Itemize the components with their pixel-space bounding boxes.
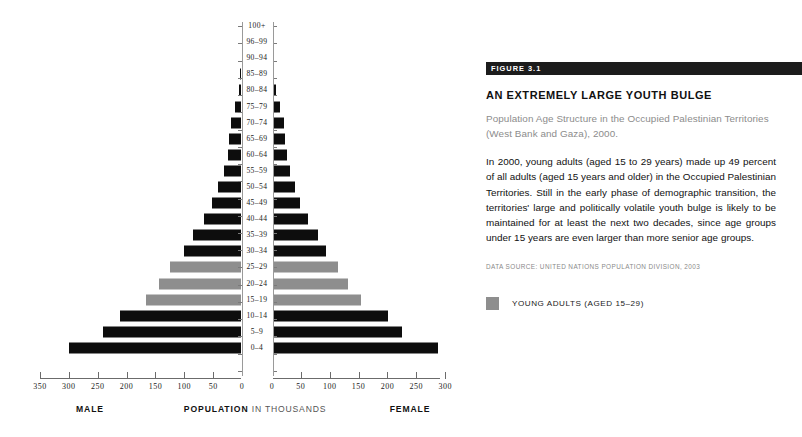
bar-female [272,181,295,192]
age-axis-tick-right [273,302,277,303]
age-axis-tick-right [273,181,277,182]
female-axis-tick [445,372,446,379]
age-group-label: 20–24 [241,279,273,289]
female-axis-tick [416,372,417,379]
age-axis-tick-right [273,319,277,320]
male-axis-tick-label: 350 [23,382,57,391]
age-group-label: 5–9 [241,327,273,337]
age-axis-spine-right [273,22,274,376]
age-group-label: 40–44 [241,214,273,224]
population-axis-title-unit: IN THOUSANDS [252,404,326,414]
male-axis-tick [40,372,41,379]
male-axis-tick [213,372,214,379]
female-axis-tick-label: 300 [428,382,462,391]
male-axis-tick [127,372,128,379]
bar-male [146,294,242,305]
pyramid-row: 80–84 [0,82,470,98]
age-axis-tick-right [273,199,277,200]
bar-female [272,133,285,144]
bar-female [272,278,348,289]
bar-male [170,262,242,273]
age-axis-tick-right [273,43,277,44]
pyramid-row: 60–64 [0,147,470,163]
age-group-label: 25–29 [241,262,273,272]
legend: YOUNG ADULTS (AGED 15–29) [486,297,802,310]
legend-label-young-adults: YOUNG ADULTS (AGED 15–29) [512,299,644,308]
bar-female [272,149,287,160]
axis-titles: MALE POPULATION IN THOUSANDS FEMALE [0,404,470,424]
bar-male [193,230,242,241]
age-axis-tick-right [273,130,277,131]
population-pyramid: 100+96–9990–9485–8980–8475–7970–7465–696… [0,18,470,378]
age-group-label: 70–74 [241,118,273,128]
age-group-label: 60–64 [241,150,273,160]
female-axis-tick [359,372,360,379]
pyramid-row: 65–69 [0,131,470,147]
bar-female [272,342,438,353]
bar-female [272,310,388,321]
figure-data-source: DATA SOURCE: UNITED NATIONS POPULATION D… [486,263,802,270]
population-axis-title-bold: POPULATION [184,404,249,414]
pyramid-row: 55–59 [0,163,470,179]
age-axis-tick-right [273,336,277,337]
legend-swatch-young-adults [486,297,499,310]
age-group-label: 100+ [241,21,273,31]
age-group-label: 15–19 [241,295,273,305]
pyramid-row: 100+ [0,18,470,34]
pyramid-row: 45–49 [0,195,470,211]
male-axis-tick [155,372,156,379]
bar-male [69,342,242,353]
female-axis-tick [330,372,331,379]
male-axis-line [40,378,242,379]
age-group-label: 65–69 [241,134,273,144]
chart-panel: 100+96–9990–9485–8980–8475–7970–7465–696… [0,0,470,437]
pyramid-row: 15–19 [0,292,470,308]
bar-male [204,214,242,225]
age-axis-tick-right [273,250,277,251]
age-group-label: 55–59 [241,166,273,176]
age-axis-tick-right [273,216,277,217]
figure-title: AN EXTREMELY LARGE YOUTH BULGE [486,88,802,102]
bar-male [229,133,242,144]
age-group-label: 96–99 [241,37,273,47]
age-axis-tick-right [273,233,277,234]
age-group-label: 50–54 [241,182,273,192]
age-group-label: 35–39 [241,230,273,240]
bar-female [272,214,308,225]
bar-male [218,181,242,192]
pyramid-row: 20–24 [0,276,470,292]
pyramid-row: 75–79 [0,98,470,114]
age-group-label: 80–84 [241,85,273,95]
age-group-label: 75–79 [241,102,273,112]
bar-female [272,230,318,241]
bar-male [228,149,242,160]
male-axis-title: MALE [40,404,140,414]
bar-male [159,278,242,289]
age-group-label: 85–89 [241,69,273,79]
pyramid-row: 5–9 [0,324,470,340]
bar-female [272,165,290,176]
pyramid-row: 70–74 [0,115,470,131]
age-axis-tick-right [273,285,277,286]
figure-number-label: FIGURE 3.1 [486,64,541,73]
age-axis-tick-right [273,354,277,355]
bar-female [272,326,402,337]
age-group-label: 10–14 [241,311,273,321]
bar-male [224,165,242,176]
age-axis-tick-right [273,95,277,96]
pyramid-row: 40–44 [0,211,470,227]
age-axis-tick-right [273,78,277,79]
pyramid-row: 30–34 [0,243,470,259]
figure-number-bar: FIGURE 3.1 [486,62,802,75]
age-group-label: 30–34 [241,246,273,256]
figure-subtitle: Population Age Structure in the Occupied… [486,112,778,141]
pyramid-row: 10–14 [0,308,470,324]
bar-male [120,310,242,321]
bar-female [272,294,361,305]
population-axis-title: POPULATION IN THOUSANDS [165,404,345,414]
age-axis-tick-right [273,61,277,62]
male-axis-tick [184,372,185,379]
bar-female [272,262,338,273]
age-axis-tick-right [273,267,277,268]
age-axis-tick-right [273,164,277,165]
